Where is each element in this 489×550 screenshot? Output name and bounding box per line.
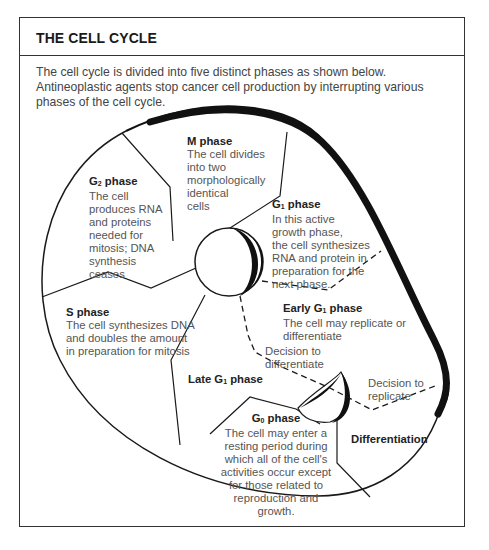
decision-differentiate-label: Decision to differentiate: [265, 345, 355, 371]
differentiation-title: Differentiation: [351, 433, 441, 446]
s-phase-label: S phase The cell synthesizes DNA and dou…: [66, 306, 206, 358]
s-phase-body: The cell synthesizes DNA and doubles the…: [66, 319, 206, 358]
early-g1-phase-body: The cell may replicate or differentiate: [283, 317, 433, 343]
g1-phase-title: G1 phase: [272, 198, 392, 213]
early-g1-phase-label: Early G1 phase The cell may replicate or…: [283, 302, 433, 343]
g0-phase-label: G0 phase The cell may enter a resting pe…: [214, 412, 338, 518]
decision-replicate-label: Decision to replicate: [368, 377, 448, 403]
g2-phase-body: The cell produces RNA and proteins neede…: [89, 190, 169, 281]
g1-phase-body: In this active growth phase, the cell sy…: [272, 213, 392, 291]
late-g1-phase-title: Late G1 phase: [188, 373, 288, 388]
divider-g0-differentiation: [337, 420, 370, 497]
m-phase-title: M phase: [187, 135, 277, 148]
early-g1-phase-title: Early G1 phase: [283, 302, 433, 317]
g0-phase-body: The cell may enter a resting period duri…: [214, 427, 338, 518]
g2-phase-title: G2 phase: [89, 175, 169, 190]
late-g1-phase-label: Late G1 phase: [188, 373, 288, 388]
differentiation-label: Differentiation: [351, 433, 441, 446]
m-phase-label: M phase The cell divides into two morpho…: [187, 135, 277, 213]
g2-phase-label: G2 phase The cell produces RNA and prote…: [89, 175, 169, 281]
g0-phase-title: G0 phase: [214, 412, 338, 427]
m-phase-body: The cell divides into two morphologicall…: [187, 148, 277, 213]
g1-phase-label: G1 phase In this active growth phase, th…: [272, 198, 392, 291]
s-phase-title: S phase: [66, 306, 206, 319]
